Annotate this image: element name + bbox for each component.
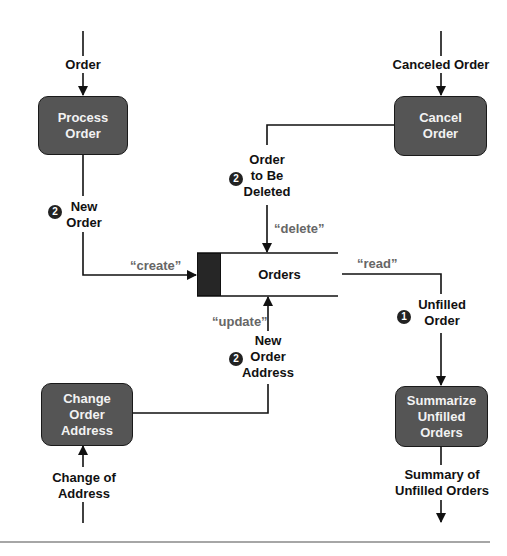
orders-store-label: Orders xyxy=(221,253,338,296)
change-order-address-label: Change Order Address xyxy=(61,391,113,439)
op-read-label: “read” xyxy=(357,256,397,271)
flow-summary-label: Summary of Unfilled Orders xyxy=(390,467,494,499)
flow-unfilled-order-label: Unfilled Order xyxy=(413,297,471,329)
flow-change-of-address-label: Change of Address xyxy=(25,470,143,502)
change-order-address-node: Change Order Address xyxy=(41,383,133,446)
op-update-label: “update” xyxy=(212,314,268,329)
op-create-label: “create” xyxy=(130,258,181,273)
flow-new-order-address-label: New Order Address xyxy=(238,333,298,381)
step-badge-new-order-address: 2 xyxy=(229,352,243,366)
step-badge-new-order: 2 xyxy=(48,205,62,219)
flow-canceled-order-label: Canceled Order xyxy=(385,57,497,73)
process-order-label: Process Order xyxy=(58,110,109,142)
flow-order-label: Order xyxy=(55,57,111,73)
summarize-unfilled-orders-label: Summarize Unfilled Orders xyxy=(407,393,476,441)
cancel-order-label: Cancel Order xyxy=(419,110,462,142)
summarize-unfilled-orders-node: Summarize Unfilled Orders xyxy=(395,386,488,447)
step-badge-unfilled-order: 1 xyxy=(397,310,411,324)
flow-order-to-be-deleted-label: Order to Be Deleted xyxy=(240,152,294,200)
process-order-node: Process Order xyxy=(38,96,128,155)
flow-new-order-label: New Order xyxy=(62,199,106,231)
orders-store-cap xyxy=(197,253,221,296)
step-badge-order-to-be-deleted: 2 xyxy=(229,172,243,186)
cancel-order-node: Cancel Order xyxy=(394,96,487,156)
op-delete-label: “delete” xyxy=(274,221,325,236)
